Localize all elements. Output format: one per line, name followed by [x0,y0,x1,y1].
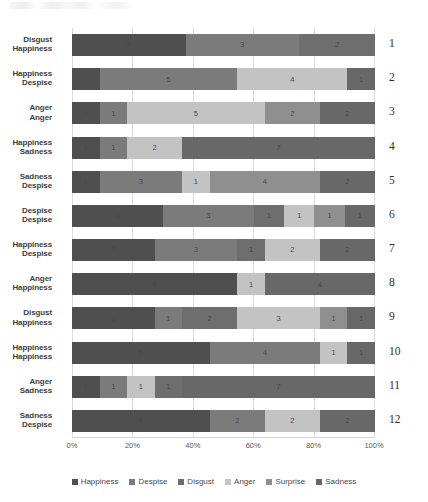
x-tick-label: 60% [246,441,261,450]
bar-segment: 1 [155,376,183,398]
legend-label: Sadness [325,477,356,486]
legend-item[interactable]: Surprise [266,477,305,486]
row-number: 5 [389,174,423,186]
y-axis-label: HappinessDespise [0,69,52,87]
x-tick-label: 40% [185,441,200,450]
bar-segment [72,68,100,90]
bar-segment: 7 [182,376,375,398]
legend-label: Anger [234,477,255,486]
bar-segment: 1 [127,376,155,398]
bar-segment: 1 [100,102,128,124]
y-axis-label: HappinessSadness [0,138,52,156]
legend-item[interactable]: Sadness [316,477,356,486]
bar-segment: 3 [186,34,300,56]
row-number: 10 [389,345,423,357]
bar-segment: 1 [100,376,128,398]
y-axis-label-line2: Happiness [0,283,52,292]
legend-swatch-icon [72,479,78,485]
bar-segment: 1 [100,137,128,159]
bar-segment: 1 [155,307,183,329]
bar-segment: 5 [72,410,210,432]
x-tick-label: 0% [67,441,78,450]
row-number: 6 [389,208,423,220]
bar-segment: 1 [237,239,265,261]
legend-item[interactable]: Despise [129,477,167,486]
y-axis-label-line2: Despise [0,181,52,190]
bar-segment: 3 [72,34,186,56]
bar-segment: 2 [265,102,320,124]
legend-swatch-icon [266,479,272,485]
bar-segment: 4 [265,273,375,295]
y-axis-label: HappinessDespise [0,240,52,258]
bar-segment: 2 [265,239,320,261]
y-axis-label: DisgustHappiness [0,308,52,326]
bar-segment: 2 [182,307,237,329]
row-number: 4 [389,140,423,152]
x-tick-label: 100% [364,441,383,450]
y-axis-label-line1: Despise [0,206,52,215]
y-axis-label: DespiseDespise [0,206,52,224]
y-axis-label-line2: Despise [0,215,52,224]
legend-swatch-icon [225,479,231,485]
bar-segment: 3 [163,205,254,227]
bar-row: 331111 [72,205,375,227]
bar-row: 11522 [72,102,375,124]
bar-segment: 4 [210,171,320,193]
bar-segment: 1 [254,205,284,227]
legend-item[interactable]: Happiness [72,477,119,486]
bar-segment: 1 [284,205,314,227]
y-axis-label-line2: Despise [0,420,52,429]
row-number: 1 [389,37,423,49]
legend-swatch-icon [178,479,184,485]
row-number: 3 [389,105,423,117]
y-axis-label: DisgustHappiness [0,35,52,53]
y-axis-label: AngerAnger [0,103,52,121]
bar-segment: 1 [182,171,210,193]
stacked-bar-chart: 3325411152211271314233111133122614312311… [0,0,428,502]
legend-label: Surprise [275,477,305,486]
y-axis-label: SadnessDespise [0,172,52,190]
bar-segment: 1 [72,171,100,193]
row-number: 11 [389,379,423,391]
row-number: 7 [389,242,423,254]
x-tick-label: 80% [306,441,321,450]
legend-item[interactable]: Anger [225,477,255,486]
y-axis-label-line1: Disgust [0,308,52,317]
x-axis-line [72,437,375,438]
legend-label: Happiness [81,477,119,486]
row-number: 2 [389,71,423,83]
bar-segment: 3 [155,239,238,261]
bar-segment: 3 [237,307,320,329]
bar-segment: 2 [320,410,375,432]
bar-segment: 1 [347,68,375,90]
y-axis-label: AngerHappiness [0,274,52,292]
legend-item[interactable]: Disgust [178,477,214,486]
legend-swatch-icon [129,479,135,485]
bar-row: 5411 [72,342,375,364]
y-axis-label-line2: Happiness [0,352,52,361]
bar-segment: 5 [127,102,265,124]
bar-row: 1127 [72,137,375,159]
bar-row: 5222 [72,410,375,432]
y-axis-label: AngerSadness [0,377,52,395]
bar-segment: 2 [210,410,265,432]
bar-segment: 4 [210,342,320,364]
bar-segment: 6 [72,273,237,295]
y-axis-label-line2: Sadness [0,386,52,395]
bar-segment: 1 [347,342,375,364]
y-axis-label-line1: Anger [0,377,52,386]
bar-row: 33122 [72,239,375,261]
y-axis-label-line1: Happiness [0,240,52,249]
bar-segment: 1 [72,376,100,398]
bar-row: 13142 [72,171,375,193]
y-axis-label-line1: Happiness [0,69,52,78]
y-axis-label-line1: Happiness [0,138,52,147]
legend-label: Despise [138,477,167,486]
bar-segment: 2 [265,410,320,432]
bar-row: 312311 [72,307,375,329]
bar-segment: 1 [320,342,348,364]
bar-segment: 3 [72,205,163,227]
legend-label: Disgust [187,477,214,486]
bar-segment: 1 [314,205,344,227]
row-number: 8 [389,276,423,288]
